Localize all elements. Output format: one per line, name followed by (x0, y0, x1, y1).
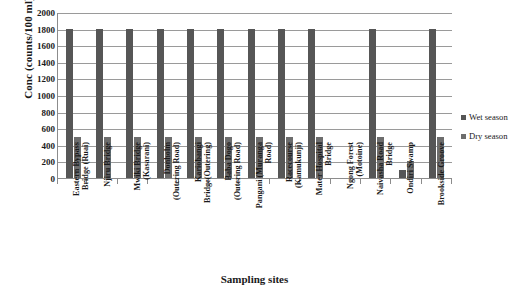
x-axis-category-label: Njiru Bridge (103, 142, 112, 226)
x-axis-category-label: Ondiri Swamp (406, 142, 415, 226)
x-axis-label-line: Eastern Bypass (72, 142, 81, 226)
y-axis-tick-label: 400 (42, 141, 56, 151)
x-axis-label-line: Donholm (163, 142, 172, 226)
bar-wet (187, 29, 194, 178)
y-axis-tick-label: 1800 (37, 25, 55, 35)
bar-wet (369, 29, 376, 178)
bar-wet (96, 29, 103, 178)
y-axis-tick-label: 1000 (37, 91, 55, 101)
y-axis-tick-label: 200 (42, 157, 56, 167)
legend-item[interactable]: Dry season (461, 131, 519, 141)
y-axis-tick-label: 1400 (37, 58, 55, 68)
x-axis-label-line: Mater Hospital (315, 142, 324, 226)
x-axis-label-cell: Ngong Forest(Motoine) (331, 184, 361, 268)
legend-label: Dry season (469, 131, 507, 141)
x-axis-label-line: Ngong Forest (346, 142, 355, 226)
bar-wet (429, 29, 436, 178)
bar-wet (278, 29, 285, 178)
x-axis-label-cell: Mater HospitalBridge (300, 184, 330, 268)
x-axis-label-line: Mwiki Bridge (133, 142, 142, 226)
x-axis-label-line: Ondiri Swamp (406, 142, 415, 226)
x-axis-label-cell: Njiru Bridge (87, 184, 117, 268)
x-axis-label-line: Racecourse (285, 142, 294, 226)
x-axis-label-line: Brookside Groove (437, 142, 446, 226)
x-axis-label-cell: Brookside Groove (422, 184, 452, 268)
x-axis-label-cell: Donholm(Outering Road) (148, 184, 178, 268)
y-axis-tick-label: 800 (42, 108, 56, 118)
y-axis-tick-label: 1600 (37, 41, 55, 51)
y-axis-tick-label: 2000 (37, 8, 55, 18)
y-axis-tick-label: 1200 (37, 74, 55, 84)
x-axis-label-cell: Pangani (MurangaRoad) (239, 184, 269, 268)
x-axis-label-cell: Naivasha RoadBridge (361, 184, 391, 268)
chart-container: Conc (counts/100 ml) 2000180016001400120… (0, 0, 519, 292)
x-axis-label-cell: Eastern BypassBridge (Ruai) (57, 184, 87, 268)
legend-item[interactable]: Wet season (461, 112, 519, 122)
x-axis-title: Sampling sites (57, 273, 452, 285)
x-axis-category-labels: Eastern BypassBridge (Ruai)Njiru BridgeM… (57, 184, 452, 268)
x-axis-label-cell: Ondiri Swamp (391, 184, 421, 268)
y-axis-tick-label: 0 (51, 174, 56, 184)
legend-label: Wet season (469, 112, 508, 122)
x-axis-label-cell: KariobangiBridge(Outering) (179, 184, 209, 268)
x-axis-label-cell: Mwiki Bridge(Kasarani) (118, 184, 148, 268)
legend-swatch-icon (461, 115, 466, 120)
chart-legend: Wet seasonDry season (461, 112, 519, 150)
x-axis-label-cell: Racecourse(Kamukunji) (270, 184, 300, 268)
x-axis-label-line: Naivasha Road (376, 142, 385, 226)
legend-swatch-icon (461, 134, 466, 139)
x-axis-label-line: Kariobangi (194, 142, 203, 226)
y-axis-tick-labels: 2000180016001400120010008006004002000 (20, 13, 55, 179)
x-axis-label-line: Pangani (Muranga (255, 142, 264, 226)
bar-wet (248, 29, 255, 178)
x-axis-category-label: Brookside Groove (437, 142, 446, 226)
x-axis-label-line: Njiru Bridge (103, 142, 112, 226)
x-axis-label-line: Baba Dogo (224, 142, 233, 226)
x-axis-label-cell: Baba Dogo(Outering Road) (209, 184, 239, 268)
y-axis-tick-label: 600 (42, 124, 56, 134)
